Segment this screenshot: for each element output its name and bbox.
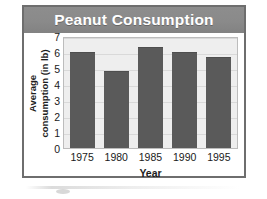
plot-area — [63, 37, 238, 149]
bar — [172, 52, 197, 148]
y-axis-tick-label: 4 — [54, 80, 60, 91]
x-axis-tick-label: 1990 — [168, 151, 202, 163]
x-axis-tick-labels: 19751980198519901995 — [63, 151, 238, 163]
chart-figure: Peanut Consumption Average consumption (… — [22, 5, 246, 178]
chart-plot-region: Average consumption (in lb) 76543210 197… — [24, 33, 244, 176]
y-axis-tick-label: 7 — [54, 32, 60, 43]
x-axis-title: Year — [63, 167, 238, 179]
page-title: Peanut Consumption — [54, 11, 213, 29]
bar — [104, 71, 129, 148]
x-axis-tick-label: 1985 — [133, 151, 167, 163]
y-axis-tick-labels: 76543210 — [46, 37, 61, 149]
x-axis-tick-label: 1975 — [65, 151, 99, 163]
x-axis-tick-label: 1995 — [202, 151, 236, 163]
bar — [206, 57, 231, 148]
y-axis-title-line-1: Average — [27, 49, 39, 137]
y-axis-tick-label: 3 — [54, 96, 60, 107]
scan-artifact-dot — [56, 189, 70, 194]
bar-series — [64, 38, 237, 148]
y-axis-tick-label: 1 — [54, 128, 60, 139]
y-axis-tick-label: 0 — [54, 144, 60, 155]
y-axis-tick-label: 6 — [54, 48, 60, 59]
bar — [138, 47, 163, 148]
y-axis-tick-label: 5 — [54, 64, 60, 75]
y-axis-tick-label: 2 — [54, 112, 60, 123]
x-axis-tick-label: 1980 — [99, 151, 133, 163]
bar — [70, 52, 95, 148]
chart-title-band: Peanut Consumption — [24, 7, 244, 33]
